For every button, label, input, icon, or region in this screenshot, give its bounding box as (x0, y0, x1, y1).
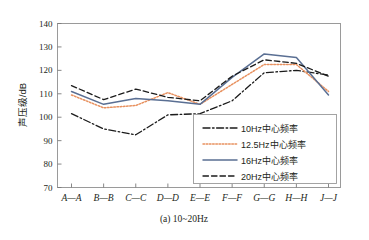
line-chart: 708090100110120130140 A—AB—BC—CD—DE—EF—F… (0, 0, 369, 240)
series-line-3 (72, 54, 329, 104)
x-tick-label: J—J (320, 193, 338, 203)
y-axis: 708090100110120130140 (39, 19, 62, 193)
legend: 10Hz中心频率12.5Hz中心频率16Hz中心频率20Hz中心频率 (194, 115, 337, 184)
y-tick-label: 100 (39, 112, 53, 122)
x-axis: A—AB—BC—CD—DE—EF—FG—GH—HJ—J (60, 184, 337, 203)
x-tick-label: G—G (253, 193, 275, 203)
x-tick-label: D—D (156, 193, 179, 203)
y-tick-label: 130 (39, 42, 53, 52)
y-tick-label: 110 (39, 89, 53, 99)
x-tick-label: H—H (284, 193, 308, 203)
legend-label-4: 20Hz中心频率 (241, 171, 298, 182)
figure-container: 708090100110120130140 A—AB—BC—CD—DE—EF—F… (0, 0, 369, 240)
y-axis-title: 声压级/dB (17, 83, 28, 127)
legend-label-3: 16Hz中心频率 (241, 155, 298, 166)
y-tick-label: 80 (44, 159, 54, 169)
x-tick-label: E—E (189, 193, 210, 203)
series-line-4 (72, 60, 329, 101)
y-tick-label: 140 (39, 19, 53, 29)
y-tick-label: 90 (44, 136, 54, 146)
x-tick-label: A—A (60, 193, 81, 203)
y-axis-title-label: 声压级/dB (17, 83, 28, 127)
y-tick-label: 70 (44, 183, 54, 193)
x-tick-label: C—C (125, 193, 147, 203)
figure-caption: (a) 10~20Hz (160, 214, 208, 225)
x-tick-label: B—B (94, 193, 114, 203)
legend-label-2: 12.5Hz中心频率 (241, 139, 306, 150)
legend-label-1: 10Hz中心频率 (241, 123, 298, 134)
x-tick-label: F—F (221, 193, 242, 203)
y-tick-label: 120 (39, 65, 53, 75)
